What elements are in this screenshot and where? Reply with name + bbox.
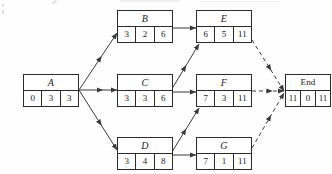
- node-g[interactable]: G7111: [196, 137, 252, 170]
- node-label: End: [286, 75, 330, 91]
- node-cell: 4: [136, 154, 154, 169]
- node-cells: 033: [24, 91, 78, 106]
- node-cell: 5: [215, 27, 233, 42]
- node-label: A: [24, 75, 78, 91]
- node-cells: 11011: [286, 91, 330, 106]
- node-e[interactable]: E6511: [196, 10, 252, 43]
- node-label: C: [118, 75, 172, 91]
- node-cell: 11: [234, 27, 251, 42]
- node-label: E: [197, 11, 251, 27]
- node-cells: 7311: [197, 91, 251, 106]
- node-end[interactable]: End11011: [285, 74, 331, 107]
- node-cell: 3: [136, 91, 154, 106]
- node-a[interactable]: A033: [23, 74, 79, 107]
- node-cell: 6: [155, 27, 172, 42]
- node-label: B: [118, 11, 172, 27]
- node-cell: 0: [301, 91, 316, 106]
- node-cell: 2: [136, 27, 154, 42]
- node-cell: 0: [24, 91, 42, 106]
- network-diagram: A033B326C336D348E6511F7311G7111End11011: [0, 0, 332, 174]
- node-b[interactable]: B326: [117, 10, 173, 43]
- node-label: G: [197, 138, 251, 154]
- node-label: F: [197, 75, 251, 91]
- node-cell: 1: [215, 154, 233, 169]
- node-cells: 336: [118, 91, 172, 106]
- node-cell: 3: [118, 91, 136, 106]
- edge-e-to-end: [252, 40, 284, 91]
- edge-g-to-end: [252, 93, 284, 148]
- node-cell: 6: [197, 27, 215, 42]
- node-c[interactable]: C336: [117, 74, 173, 107]
- edge-a-to-d: [79, 90, 117, 150]
- node-label: D: [118, 138, 172, 154]
- node-cells: 7111: [197, 154, 251, 169]
- node-cell: 8: [155, 154, 172, 169]
- node-cell: 11: [316, 91, 330, 106]
- node-cell: 7: [197, 154, 215, 169]
- node-cells: 326: [118, 27, 172, 42]
- node-f[interactable]: F7311: [196, 74, 252, 107]
- node-cell: 3: [61, 91, 78, 106]
- node-cell: 7: [197, 91, 215, 106]
- node-cell: 3: [118, 154, 136, 169]
- node-cell: 11: [234, 154, 251, 169]
- edge-a-to-b: [79, 33, 117, 90]
- node-cell: 11: [286, 91, 301, 106]
- node-cell: 6: [155, 91, 172, 106]
- node-cells: 348: [118, 154, 172, 169]
- node-d[interactable]: D348: [117, 137, 173, 170]
- node-cell: 3: [215, 91, 233, 106]
- node-cell: 11: [234, 91, 251, 106]
- node-cells: 6511: [197, 27, 251, 42]
- node-cell: 3: [42, 91, 60, 106]
- node-cell: 3: [118, 27, 136, 42]
